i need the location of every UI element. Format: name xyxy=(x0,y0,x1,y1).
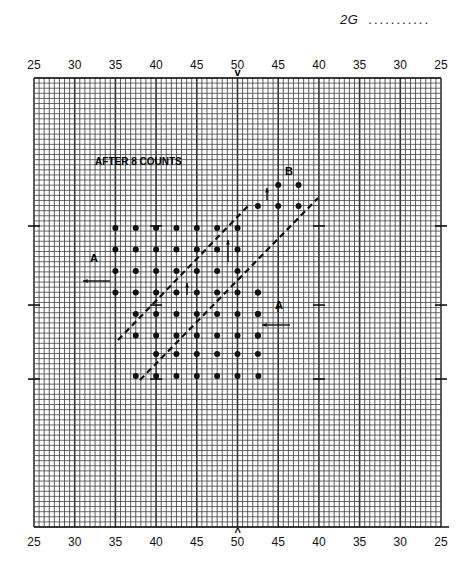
marcher-dot xyxy=(214,225,220,231)
center-marker-bottom: ^ xyxy=(235,526,242,538)
marcher-dot xyxy=(133,268,139,274)
marcher-dot xyxy=(194,311,200,317)
marcher-dot xyxy=(194,373,200,379)
marcher-dot xyxy=(173,290,179,296)
marcher-dot xyxy=(235,290,241,296)
marcher-dot xyxy=(214,311,220,317)
marcher-dot xyxy=(214,351,220,357)
marcher-dot xyxy=(235,268,241,274)
marcher-dot xyxy=(173,225,179,231)
marcher-dot xyxy=(275,203,281,209)
marcher-dot xyxy=(153,247,159,253)
marcher-dot xyxy=(194,225,200,231)
marcher-dot xyxy=(173,268,179,274)
marcher-dot xyxy=(255,203,261,209)
marcher-dot xyxy=(214,290,220,296)
marcher-dot xyxy=(153,225,159,231)
marcher-dot xyxy=(235,311,241,317)
marcher-dot xyxy=(296,182,302,188)
marcher-dot xyxy=(194,351,200,357)
marcher-dot xyxy=(153,311,159,317)
center-marker-top: v xyxy=(235,66,242,78)
field-grid: v^AFTER 8 COUNTSAAB xyxy=(0,0,473,573)
marcher-dot xyxy=(133,247,139,253)
marcher-dot xyxy=(214,268,220,274)
diagram-title: AFTER 8 COUNTS xyxy=(95,156,182,167)
marcher-dot xyxy=(153,290,159,296)
marcher-dot xyxy=(133,373,139,379)
marcher-dot xyxy=(173,351,179,357)
marcher-dot xyxy=(194,290,200,296)
marcher-dot xyxy=(153,351,159,357)
marcher-dot xyxy=(214,247,220,253)
marcher-dot xyxy=(153,333,159,339)
arrow-up-2-head xyxy=(226,240,230,245)
marcher-dot xyxy=(112,225,118,231)
marcher-dot xyxy=(112,247,118,253)
marcher-dot xyxy=(173,373,179,379)
marcher-dot xyxy=(235,351,241,357)
group-b-label: B xyxy=(285,165,293,177)
marcher-dot xyxy=(153,373,159,379)
marcher-dot xyxy=(112,268,118,274)
marcher-dot xyxy=(133,333,139,339)
arrow-up-head xyxy=(185,283,189,288)
marcher-dot xyxy=(235,247,241,253)
marcher-dot xyxy=(133,311,139,317)
marcher-dot xyxy=(173,247,179,253)
marcher-dot xyxy=(255,373,261,379)
marcher-dot xyxy=(255,351,261,357)
marcher-dot xyxy=(133,290,139,296)
marcher-dot xyxy=(235,225,241,231)
marcher-dot xyxy=(194,333,200,339)
marcher-dot xyxy=(194,268,200,274)
group-a-label: A xyxy=(90,252,98,264)
marcher-dot xyxy=(173,333,179,339)
marcher-dot xyxy=(235,333,241,339)
marcher-dot xyxy=(214,333,220,339)
marcher-dot xyxy=(112,290,118,296)
marcher-dot xyxy=(153,268,159,274)
marcher-dot xyxy=(255,290,261,296)
marcher-dot xyxy=(255,333,261,339)
marcher-dot xyxy=(235,373,241,379)
marcher-dot xyxy=(133,225,139,231)
marcher-dot xyxy=(214,373,220,379)
group-a-label-2: A xyxy=(275,299,283,311)
marcher-dot xyxy=(275,182,281,188)
marcher-dot xyxy=(296,203,302,209)
marcher-dot xyxy=(173,311,179,317)
marcher-dot xyxy=(194,247,200,253)
marcher-dot xyxy=(255,311,261,317)
